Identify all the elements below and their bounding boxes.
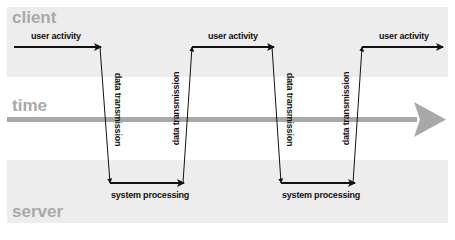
data-transmission-line-2 (183, 47, 192, 183)
data-transmission-label-3: data transmission (285, 71, 294, 149)
user-activity-label-1: user activity (31, 32, 81, 41)
data-transmission-label-2: data transmission (172, 70, 181, 148)
data-transmission-label-1: data transmission (113, 71, 122, 149)
data-transmission-line-3 (272, 47, 281, 183)
user-activity-label-2: user activity (208, 32, 258, 41)
data-transmission-label-4: data transmission (342, 70, 351, 148)
system-processing-label-2: system processing (282, 191, 360, 200)
user-activity-label-3: user activity (379, 32, 429, 41)
system-processing-label-1: system processing (111, 191, 189, 200)
data-transmission-line-1 (100, 47, 110, 183)
data-transmission-line-4 (353, 47, 362, 183)
time-arrow (7, 102, 446, 137)
